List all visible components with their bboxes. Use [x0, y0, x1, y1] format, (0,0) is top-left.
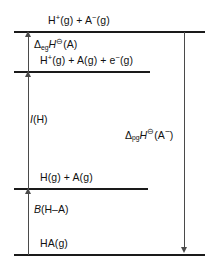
quantity-label-bond-enthalpy: B(H–A): [34, 203, 68, 215]
level-label-ion-pair: H+(g) + A−(g): [48, 14, 110, 26]
quantity-label-ionisation-enthalpy: I(H): [30, 113, 48, 125]
level-label-proton-atom-electron: H+(g) + A(g) + e−(g): [40, 54, 133, 66]
arrow-electron-gain-enthalpy: [28, 32, 29, 72]
arrow-ionisation-enthalpy: [28, 72, 29, 189]
level-label-molecule: HA(g): [40, 237, 68, 249]
level-line-proton-atom-electron: [14, 71, 150, 73]
arrow-bond-enthalpy: [28, 189, 29, 255]
level-label-atoms: H(g) + A(g): [40, 171, 93, 183]
arrowhead-proton-gain-enthalpy: [181, 247, 187, 253]
level-line-atoms: [14, 188, 148, 190]
arrowhead-electron-gain-enthalpy: [25, 31, 31, 37]
level-line-ion-pair: [14, 31, 205, 33]
quantity-label-electron-gain-enthalpy: ΔegH⊖(A): [34, 38, 77, 50]
arrowhead-bond-enthalpy: [25, 188, 31, 194]
level-line-molecule: [14, 254, 205, 256]
arrow-proton-gain-enthalpy: [184, 32, 185, 248]
energy-level-diagram: H+(g) + A−(g) H+(g) + A(g) + e−(g) H(g) …: [0, 0, 208, 261]
quantity-label-proton-gain-enthalpy: ΔpgH⊖(A−): [125, 126, 173, 141]
arrowhead-ionisation-enthalpy: [25, 71, 31, 77]
